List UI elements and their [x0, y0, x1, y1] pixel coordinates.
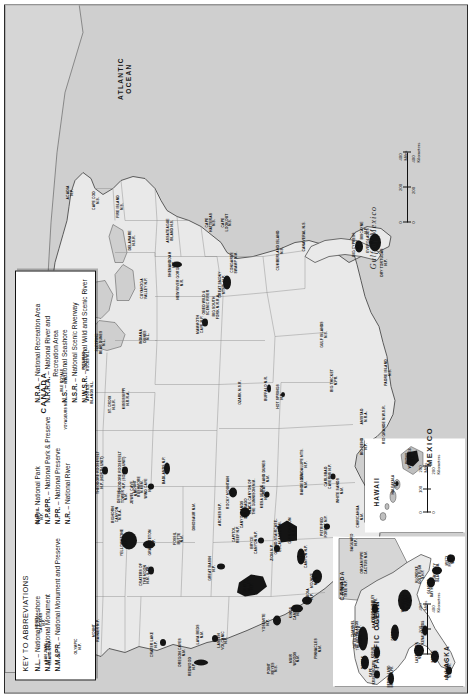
park-label: OREGON CAVES N.M.	[179, 638, 186, 667]
park-label: LAKE CLARK N.P.&PR.	[416, 642, 422, 663]
legend-item: N.P.&PR. – National Park & Preserve	[44, 416, 52, 524]
legend-item: N.M.&PR. – National Monument and Preserv…	[54, 538, 62, 671]
park-label: CUMBERLAND ISLAND N.S.	[277, 230, 284, 270]
park-label: VOYAGEURS N.P.	[65, 399, 69, 429]
park-label: PICTURED ROCKS N.L.	[83, 350, 90, 371]
park-label: CAPE LOOKOUT N.S.	[222, 213, 233, 231]
park-label: HALEAKALA N.P.	[392, 474, 398, 494]
park-label: BIGHORN CANYON N.R.A.	[112, 506, 123, 523]
park-label: GATES OF THE ARCTIC N.P.&PR.	[354, 630, 363, 649]
park-label: HOT SPRINGS N.P.	[277, 384, 284, 409]
park-label: FOSSIL BUTTE N.M.	[174, 532, 185, 545]
legend-text: – National Scenic Riverway	[71, 302, 78, 383]
legend-text: – National River and	[44, 315, 51, 376]
park-label: ASSATEAGUE ISLAND N.S.	[167, 218, 174, 243]
ocean-label-atlantic: ATLANTIC OCEAN	[117, 42, 133, 115]
scale-main-km-0: 0	[411, 221, 416, 223]
country-label-canada: CANADA	[39, 371, 48, 413]
legend-text: – National Park	[34, 466, 41, 512]
park-label: SLEEPING BEAR DUNES N.L.	[96, 330, 107, 354]
park-label: BANDELIER N.M.	[301, 474, 308, 495]
park-label: HAWAII VOLCANOES N.P.	[406, 448, 415, 468]
park-label: APOSTLE ISLANDS N.L.	[87, 380, 94, 404]
park-label: CONGAREE SWAMP N.M.	[231, 251, 238, 273]
scale-hi-mi-1: 100	[418, 486, 423, 493]
park-label: KENAI FJORDS N.P.	[422, 620, 428, 644]
park-label: CAPE HATTERAS N.S.	[206, 212, 217, 231]
park-label: WRANGELL- ST. ELIAS N.P.&PR.	[402, 592, 411, 611]
park-label: BADLANDS N.P.	[163, 456, 167, 484]
park-label: WHITE SANDS N.M.	[337, 477, 344, 502]
park-label: GREAT BASIN N.P.	[209, 556, 216, 580]
park-label: CAPE KRUSENSTERN N.M.	[370, 660, 379, 684]
park-label: GRAND TETON N.P.	[149, 529, 156, 555]
legend-subtext: Recreation Area	[52, 279, 60, 402]
park-label: CANAVERAL N.S.	[303, 221, 307, 251]
legend-heading: KEY TO ABBREVIATIONS	[21, 279, 30, 671]
legend-abbr: N.M.&PR.	[54, 642, 61, 671]
inset-title-hawaii: HAWAII	[373, 477, 380, 506]
park-label: DENALI N.P.&PR.	[392, 627, 398, 641]
legend-abbr: N.S.R.	[71, 383, 78, 402]
legend-box: KEY TO ABBREVIATIONS N.L. – National Lak…	[15, 270, 96, 680]
park-label: MUIR WOODS N.M.	[290, 651, 301, 665]
park-label: NOATAK N.PR.	[362, 655, 368, 668]
park-label: CRATERS OF THE MOON N.M. & PR.	[140, 563, 151, 586]
scale-hi-km-0: 0	[431, 511, 436, 513]
park-label: ST. CROIX N.S.R.	[109, 395, 116, 413]
legend-text: – National Preserve	[54, 447, 61, 506]
park-label: KATMAI N.P.&PR.	[432, 649, 438, 663]
legend-text: – National River	[64, 463, 71, 511]
scale-bar-main: 0 200 400 Miles 0 200 400 Kilometers	[403, 152, 411, 222]
scale-ak-mi-unit: 400 Miles	[418, 600, 428, 610]
legend-abbr: N.L.	[34, 659, 41, 671]
park-label: NEW RIVER GORGE N.R.	[177, 265, 184, 300]
park-label: BUFFALO N.R.	[265, 375, 269, 400]
park-label: KINGS CANYON N.P.	[290, 604, 301, 619]
park-label: DINOSAUR N.M.	[193, 502, 197, 530]
legend-item: N.S.R. – National Scenic Riverway	[71, 279, 79, 402]
park-label: YOSEMITE N.P.	[263, 613, 270, 631]
scale-main-mi-unit: 400 Miles	[398, 150, 408, 160]
park-label: DRY TORTUGAS N.P.	[381, 248, 388, 276]
park-label: ARCHES N.P.	[219, 503, 223, 526]
scale-main-mi-0: 0	[398, 221, 403, 223]
park-label: KLONDIKE GOLD RUSH N.H.P.	[416, 564, 425, 583]
scale-hi-km-unit: 200 Kilometers	[431, 454, 441, 474]
park-label: BRYCE CANYON N.P.	[251, 530, 258, 553]
map-frame: KEY TO ABBREVIATIONS N.L. – National Lak…	[4, 4, 468, 693]
park-label: SEQUOIA N.P.	[307, 588, 314, 604]
park-label: ORGAN PIPE CACTUS N.M.	[361, 550, 368, 574]
legend-item: N.L. – National Lakeshore	[34, 538, 42, 671]
park-label: FIRE ISLAND N.S.	[117, 195, 124, 218]
park-label: OLYMPIC N.P.	[75, 638, 82, 654]
legend-text: – National Monument and Preserve	[54, 538, 61, 642]
legend-abbr: N.P.&PR.	[44, 496, 51, 523]
legend-abbr: N.R.	[64, 511, 71, 524]
park-label: MAMMOTH CAVE N.P.	[197, 315, 204, 334]
park-label: GRAND STAIRCASE- ESCALANTE N.M.	[275, 518, 282, 554]
scale-bar-hawaii: 0 100 200 Miles 0 200 Kilometers	[423, 466, 431, 512]
park-label: PADRE ISLAND N.S.	[385, 359, 392, 386]
park-label: KOBUK VALLEY N.P.	[372, 646, 381, 658]
park-label: OZARK N.S.R.	[239, 380, 243, 404]
park-label: BISCAYNE N.P.	[361, 221, 368, 239]
park-label: RIO GRANDE N.W.S.R.	[383, 405, 387, 444]
park-label: LASSEN VOLCANIC N.P.	[218, 631, 229, 650]
park-label: ROCKY MOUNTAIN N.P.	[227, 476, 234, 509]
park-label: PINNACLES N.M.	[315, 638, 322, 659]
park-label: MISTY FIORDS N.M.	[446, 554, 455, 566]
park-label: LAVA BEDS N.M.	[197, 624, 204, 644]
park-label: GREAT SAND DUNES N.M.	[263, 460, 270, 497]
park-label: GLACIER N.P.	[37, 508, 44, 524]
park-label: REDWOOD N.P.	[189, 657, 196, 676]
park-label: ANIAKCHAK N.M.&PR.	[446, 660, 452, 679]
park-label: POINT REYES N.S.	[268, 662, 279, 674]
park-label: THEODORE ROOSEVELT N.P. (SOUTH UNIT)	[119, 451, 126, 494]
park-label: CUYAHOGA VALLEY N.P.	[141, 277, 148, 298]
legend-item: N.PR. – National Preserve	[54, 416, 62, 524]
park-label: OBED WILD & SCENIC RIVER	[203, 289, 210, 315]
park-label: AMISTAD N.R.A.	[361, 408, 368, 424]
park-label: MOJAVE N.PR.	[311, 573, 318, 588]
park-label: CHIRICAHUA N.M.	[357, 505, 364, 528]
